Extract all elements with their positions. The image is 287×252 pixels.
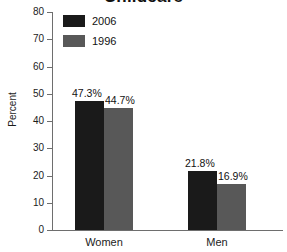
bar-men-1996 <box>217 184 246 230</box>
bar-value-label: 47.3% <box>72 87 102 99</box>
y-tick-label-wrap: 30 <box>0 148 44 149</box>
y-axis-title: Percent <box>7 75 18 145</box>
bar-value-label: 44.7% <box>105 94 135 106</box>
y-tick-label-wrap: 70 <box>0 39 44 40</box>
y-tick-label: 20 <box>2 170 44 181</box>
x-axis-label-men: Men <box>177 236 257 248</box>
y-tick-mark <box>47 39 52 40</box>
y-tick-label-wrap: 60 <box>0 67 44 68</box>
y-axis-line <box>52 12 53 231</box>
legend-item-2006[interactable]: 2006 <box>63 12 116 29</box>
legend-label: 1996 <box>92 35 116 47</box>
y-tick-mark <box>47 230 52 231</box>
y-tick-mark <box>47 121 52 122</box>
y-tick-label: 80 <box>2 6 44 17</box>
bar-value-label: 16.9% <box>218 170 248 182</box>
y-tick-label-wrap: 80 <box>0 12 44 13</box>
y-tick-label: 0 <box>2 224 44 235</box>
y-tick-label-wrap: 0 <box>0 230 44 231</box>
legend-label: 2006 <box>92 15 116 27</box>
y-tick-mark <box>47 176 52 177</box>
y-tick-label: 40 <box>2 115 44 126</box>
y-tick-label: 70 <box>2 33 44 44</box>
y-tick-label-wrap: 10 <box>0 203 44 204</box>
legend-item-1996[interactable]: 1996 <box>63 32 116 49</box>
bar-men-2006 <box>188 171 217 230</box>
bar-women-2006 <box>75 101 104 230</box>
y-tick-label-wrap: 50 <box>0 94 44 95</box>
bar-women-1996 <box>104 108 133 230</box>
y-tick-label-wrap: 20 <box>0 176 44 177</box>
y-tick-label-wrap: 40 <box>0 121 44 122</box>
y-tick-label: 30 <box>2 142 44 153</box>
chart-container: Childcare Percent 01020304050607080 47.3… <box>0 0 287 252</box>
bar-value-label: 21.8% <box>185 157 215 169</box>
y-tick-mark <box>47 94 52 95</box>
y-tick-mark <box>47 203 52 204</box>
y-tick-label: 10 <box>2 197 44 208</box>
y-tick-mark <box>47 148 52 149</box>
legend-swatch-icon <box>63 35 85 47</box>
y-tick-mark <box>47 12 52 13</box>
y-tick-label: 50 <box>2 88 44 99</box>
legend-swatch-icon <box>63 15 85 27</box>
y-tick-mark <box>47 67 52 68</box>
y-tick-label: 60 <box>2 61 44 72</box>
chart-legend: 20061996 <box>63 12 116 52</box>
x-axis-line <box>52 230 283 231</box>
x-axis-label-women: Women <box>64 236 144 248</box>
